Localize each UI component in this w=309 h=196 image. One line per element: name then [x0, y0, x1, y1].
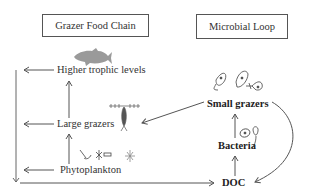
node-large-grazers: Large grazers — [57, 119, 114, 130]
node-doc: DOC — [222, 178, 245, 189]
microbial-loop-title: Microbial Loop — [209, 21, 275, 32]
phytoplankton-cells-icon — [80, 150, 135, 162]
node-bacteria: Bacteria — [218, 141, 256, 152]
microbial-loop-title-box: Microbial Loop — [196, 14, 288, 39]
ciliate-icons — [214, 71, 262, 90]
arrow-small-to-doc — [255, 102, 293, 182]
grazer-food-chain-title-box: Grazer Food Chain — [42, 14, 149, 37]
left-return-line — [13, 70, 19, 182]
node-small-grazers: Small grazers — [207, 99, 269, 110]
arrow-small-to-large — [142, 102, 204, 123]
grazer-food-chain-title: Grazer Food Chain — [55, 20, 135, 31]
node-phytoplankton: Phytoplankton — [60, 165, 121, 176]
node-higher-trophic-levels: Higher trophic levels — [57, 65, 146, 76]
